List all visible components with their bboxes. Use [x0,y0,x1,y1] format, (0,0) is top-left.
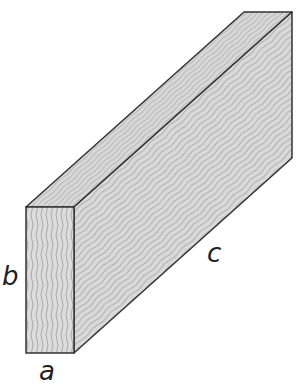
label-a: a [39,358,55,384]
board-diagram [0,0,297,384]
label-c: c [207,240,221,266]
label-b: b [2,263,19,289]
board-end-face [26,207,74,353]
board-side-face [74,12,292,353]
